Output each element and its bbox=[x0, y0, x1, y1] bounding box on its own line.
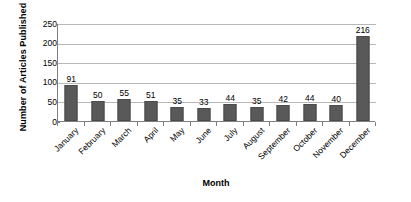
bar[interactable] bbox=[224, 104, 237, 121]
bar-value-label: 91 bbox=[67, 75, 76, 84]
bar-value-label: 216 bbox=[356, 26, 370, 35]
bar-slot: 35 bbox=[244, 23, 271, 121]
bar-value-label: 44 bbox=[305, 94, 314, 103]
bar-value-label: 40 bbox=[332, 95, 341, 104]
bar[interactable] bbox=[91, 101, 104, 121]
plot-area: 9150555135334435424440216 bbox=[57, 24, 375, 122]
y-axis-tick-label: 250 bbox=[23, 20, 57, 28]
bar[interactable] bbox=[277, 105, 290, 121]
bar[interactable] bbox=[250, 107, 263, 121]
bar-slot: 33 bbox=[191, 23, 218, 121]
bar[interactable] bbox=[65, 85, 78, 121]
bar-slot: 44 bbox=[217, 23, 244, 121]
bar-value-label: 55 bbox=[120, 89, 129, 98]
bar-slot: 91 bbox=[58, 23, 85, 121]
bar-slot: 40 bbox=[323, 23, 350, 121]
bar-chart: Number of Articles Published 05010015020… bbox=[0, 0, 411, 202]
bar-value-label: 50 bbox=[93, 91, 102, 100]
x-axis-title: Month bbox=[57, 178, 375, 188]
bar[interactable] bbox=[330, 105, 343, 121]
bar-value-label: 35 bbox=[173, 97, 182, 106]
bar-slot: 44 bbox=[297, 23, 324, 121]
y-axis-tick-label: 200 bbox=[23, 39, 57, 47]
y-axis-tick-label: 100 bbox=[23, 78, 57, 86]
y-axis-tick-label: 0 bbox=[23, 118, 57, 126]
bar-value-label: 33 bbox=[199, 98, 208, 107]
y-axis-tick-label: 50 bbox=[23, 98, 57, 106]
bar[interactable] bbox=[303, 104, 316, 121]
bar-value-label: 35 bbox=[252, 97, 261, 106]
bar[interactable] bbox=[197, 108, 210, 121]
bar[interactable] bbox=[171, 107, 184, 121]
y-axis-tick-label: 150 bbox=[23, 59, 57, 67]
bar[interactable] bbox=[144, 101, 157, 121]
x-axis-label-group: JanuaryFebruaryMarchAprilMayJuneJulyAugu… bbox=[57, 126, 387, 174]
bar-slot: 42 bbox=[270, 23, 297, 121]
bar-slot: 216 bbox=[350, 23, 377, 121]
bar-value-label: 51 bbox=[146, 91, 155, 100]
bar-slot: 50 bbox=[85, 23, 112, 121]
bar-value-label: 44 bbox=[226, 94, 235, 103]
bar-slot: 55 bbox=[111, 23, 138, 121]
bar-slot: 35 bbox=[164, 23, 191, 121]
bar-slot: 51 bbox=[138, 23, 165, 121]
x-axis-tick-label: December bbox=[316, 126, 372, 182]
bar[interactable] bbox=[118, 99, 131, 121]
bar-value-label: 42 bbox=[279, 95, 288, 104]
bar[interactable] bbox=[356, 36, 369, 121]
